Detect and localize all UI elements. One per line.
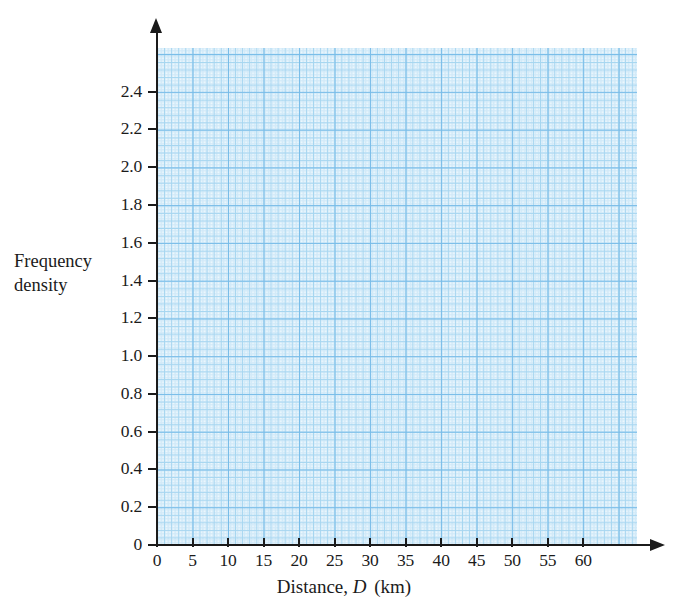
x-tick-label-45: 45 <box>457 550 497 571</box>
y-tick-2.0 <box>148 166 158 168</box>
x-tick-25 <box>334 538 336 547</box>
y-axis-title: Frequency density <box>14 250 114 297</box>
graph-paper-grid <box>157 48 637 545</box>
x-tick-label-15: 15 <box>244 550 284 571</box>
x-tick-label-30: 30 <box>350 550 390 571</box>
graph-paper-figure: 051015202530354045505560 00.20.40.60.81.… <box>0 0 688 614</box>
x-tick-10 <box>227 538 229 547</box>
x-axis-title: Distance, D (km) <box>0 576 688 598</box>
y-axis-title-line2: density <box>14 274 114 298</box>
x-tick-label-20: 20 <box>279 550 319 571</box>
x-tick-15 <box>263 538 265 547</box>
y-tick-label-0: 0 <box>94 534 142 555</box>
x-axis-title-unit: (km) <box>374 576 411 597</box>
y-tick-0 <box>148 544 158 546</box>
y-tick-label-0.4: 0.4 <box>94 458 142 479</box>
x-tick-20 <box>298 538 300 547</box>
x-tick-30 <box>369 538 371 547</box>
x-axis-title-variable: D <box>353 576 367 597</box>
x-tick-5 <box>192 538 194 547</box>
y-tick-label-1.8: 1.8 <box>94 194 142 215</box>
x-tick-label-5: 5 <box>173 550 213 571</box>
x-tick-label-40: 40 <box>421 550 461 571</box>
y-axis-title-line1: Frequency <box>14 250 114 274</box>
x-tick-label-50: 50 <box>492 550 532 571</box>
y-tick-0.6 <box>148 431 158 433</box>
x-tick-label-10: 10 <box>208 550 248 571</box>
y-tick-label-2.0: 2.0 <box>94 156 142 177</box>
y-tick-label-0.8: 0.8 <box>94 383 142 404</box>
y-tick-0.4 <box>148 468 158 470</box>
x-tick-60 <box>582 538 584 547</box>
y-tick-2.4 <box>148 91 158 93</box>
y-tick-1.8 <box>148 204 158 206</box>
x-tick-label-55: 55 <box>528 550 568 571</box>
y-tick-label-2.2: 2.2 <box>94 118 142 139</box>
y-tick-label-2.4: 2.4 <box>94 81 142 102</box>
y-tick-1.2 <box>148 317 158 319</box>
y-tick-1.0 <box>148 355 158 357</box>
y-tick-0.2 <box>148 506 158 508</box>
x-axis-arrowhead-icon <box>650 539 665 551</box>
x-tick-45 <box>476 538 478 547</box>
x-tick-label-60: 60 <box>563 550 603 571</box>
y-tick-label-0.6: 0.6 <box>94 421 142 442</box>
x-axis-title-prefix: Distance, <box>277 576 348 597</box>
x-tick-label-35: 35 <box>386 550 426 571</box>
x-tick-40 <box>440 538 442 547</box>
x-tick-55 <box>547 538 549 547</box>
y-tick-label-1.2: 1.2 <box>94 307 142 328</box>
x-tick-label-25: 25 <box>315 550 355 571</box>
y-tick-1.4 <box>148 280 158 282</box>
x-tick-50 <box>511 538 513 547</box>
y-tick-2.2 <box>148 128 158 130</box>
y-tick-label-1.0: 1.0 <box>94 345 142 366</box>
y-tick-label-0.2: 0.2 <box>94 496 142 517</box>
y-axis-arrowhead-icon <box>150 18 162 33</box>
x-tick-label-0: 0 <box>137 550 177 571</box>
y-tick-1.6 <box>148 242 158 244</box>
y-tick-0.8 <box>148 393 158 395</box>
x-tick-35 <box>405 538 407 547</box>
y-axis-tick-labels: 00.20.40.60.81.01.21.41.61.82.02.22.4 <box>94 0 142 614</box>
